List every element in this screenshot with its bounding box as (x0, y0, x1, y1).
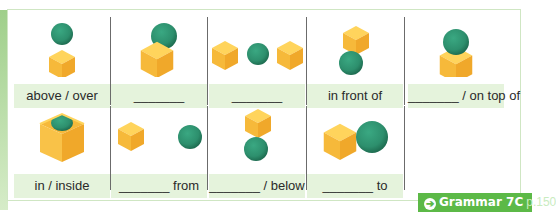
sphere-behind-cube-illustration (111, 12, 207, 77)
divider (404, 106, 405, 190)
sphere-in-front-of-cube-illustration (307, 12, 403, 77)
sphere-icon (247, 43, 269, 65)
cube-icon (212, 41, 238, 70)
sphere-below-cube-illustration (209, 102, 305, 167)
label-in-inside: in / inside (14, 174, 110, 198)
sphere-icon (443, 29, 469, 55)
grammar-reference-page: p.150 (526, 195, 556, 209)
sphere-icon (51, 23, 73, 45)
grammar-reference-title: Grammar 7C (439, 195, 523, 209)
sphere-inside-cube-illustration (14, 102, 110, 167)
cube-icon (118, 122, 144, 151)
cube-far-from-sphere-illustration (111, 102, 207, 167)
label-blank-below: _______ / below (209, 174, 305, 198)
divider (207, 106, 208, 190)
sphere-icon (178, 125, 202, 149)
label-on-top-of: _______ / on top of (408, 84, 504, 108)
sphere-on-cube-illustration (408, 12, 504, 77)
cube-icon (324, 124, 357, 160)
grammar-reference-badge[interactable]: ➔Grammar 7Cp.150 (418, 193, 532, 212)
arrow-right-icon: ➔ (424, 198, 436, 210)
divider (404, 17, 405, 105)
cube-icon (245, 109, 271, 138)
divider (207, 17, 208, 105)
cube-icon (49, 50, 75, 77)
sphere-icon (339, 51, 363, 75)
label-blank-from: _______ from (111, 174, 207, 198)
sphere-above-cube-illustration (14, 12, 110, 77)
cube-next-to-sphere-illustration (307, 102, 403, 167)
sphere-between-cubes-illustration (209, 12, 305, 77)
cube-icon (277, 41, 303, 70)
label-blank-to: _______ to (307, 174, 403, 198)
sphere-icon (244, 137, 268, 161)
sphere-icon (356, 121, 388, 153)
cube-icon (343, 26, 369, 55)
